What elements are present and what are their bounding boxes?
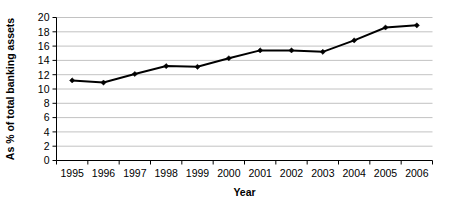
y-tick-label: 14	[38, 54, 50, 66]
line-chart: 02468101214161820 1995199619971998199920…	[0, 0, 455, 212]
x-tick-label: 1995	[60, 167, 84, 179]
x-tick-label: 2002	[280, 167, 304, 179]
y-tick-label: 20	[38, 11, 50, 23]
y-tick-label: 10	[38, 83, 50, 95]
y-tick-label: 18	[38, 26, 50, 38]
x-axis-title: Year	[233, 186, 255, 198]
x-tick-label: 2003	[311, 167, 335, 179]
x-tick-label: 2001	[248, 167, 272, 179]
y-tick-label: 8	[44, 97, 50, 109]
x-tick-label: 2005	[374, 167, 398, 179]
y-tick-label: 4	[44, 126, 50, 138]
chart-canvas: 02468101214161820 1995199619971998199920…	[0, 0, 455, 212]
x-tick-label: 2000	[217, 167, 241, 179]
y-tick-label: 0	[44, 154, 50, 166]
x-tick-label: 2004	[342, 167, 366, 179]
x-tick-label: 1997	[123, 167, 147, 179]
x-tick-label: 1998	[154, 167, 178, 179]
x-tick-label: 2006	[405, 167, 429, 179]
y-tick-label: 2	[44, 140, 50, 152]
y-tick-label: 12	[38, 69, 50, 81]
y-tick-label: 16	[38, 40, 50, 52]
x-tick-label: 1996	[92, 167, 116, 179]
y-tick-label: 6	[44, 111, 50, 123]
y-axis-title: As % of total banking assets	[4, 18, 16, 161]
x-tick-label: 1999	[186, 167, 210, 179]
